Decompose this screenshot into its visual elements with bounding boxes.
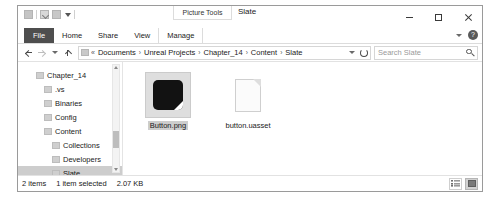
breadcrumb-item-chapter-14[interactable]: Chapter_14 [203,48,242,57]
file-item-button-png[interactable]: Button.png [137,70,199,130]
breadcrumb-separator-1[interactable]: › [139,49,141,56]
navigation-pane: Chapter_14 .vs Binaries Config [18,62,123,175]
folder-icon [44,114,52,121]
generic-file-icon [235,79,261,112]
folder-icon [44,86,52,93]
maximize-button[interactable] [424,6,453,28]
breadcrumb-item-unreal-projects[interactable]: Unreal Projects [144,48,195,57]
qat-folder-icon[interactable] [24,10,33,19]
up-button[interactable] [61,45,74,61]
help-icon[interactable]: ? [468,30,478,40]
tree-item-collections[interactable]: Collections [18,138,122,152]
file-thumbnail [145,72,191,118]
breadcrumb: « Documents › Unreal Projects › Chapter_… [91,48,345,57]
up-arrow-icon [64,49,72,57]
minimize-button[interactable] [395,6,424,28]
file-item-button-uasset[interactable]: button.uasset [217,70,279,130]
selection-label: 1 item selected [56,179,106,188]
tree-item-label: Slate [63,169,80,176]
tree-item-developers[interactable]: Developers [18,152,122,166]
details-view-icon [451,180,460,187]
quick-access-toolbar [24,10,75,19]
qat-customize-chevron-down-icon[interactable] [65,13,71,17]
tree-item-label: Chapter_14 [47,71,86,80]
folder-icon [52,142,60,149]
nav-pane-scrollbar[interactable] [112,64,120,173]
back-arrow-icon [25,49,32,56]
minimize-icon [406,17,413,18]
ribbon-controls: ? [456,30,478,40]
title-bar: Picture Tools Slate [18,6,482,28]
scroll-up-icon[interactable] [114,66,118,69]
qat-properties-icon[interactable] [40,10,49,19]
breadcrumb-overflow[interactable]: « [91,49,95,56]
file-list-pane[interactable]: Button.png button.uasset [123,62,482,175]
tree-item-label: Content [55,127,81,136]
folder-icon [44,128,52,135]
tree-item-config[interactable]: Config [18,110,122,124]
tree-item-vs[interactable]: .vs [18,82,122,96]
details-view-button[interactable] [449,178,462,190]
tab-home[interactable]: Home [54,28,90,43]
back-button[interactable] [22,45,35,61]
tab-view[interactable]: View [126,28,158,43]
file-thumbnail [225,72,271,118]
folder-icon [52,170,60,176]
search-input[interactable]: Search Slate [374,46,478,60]
breadcrumb-item-slate[interactable]: Slate [285,48,302,57]
qat-new-folder-icon[interactable] [52,10,61,19]
item-count-label: 2 items [22,179,46,188]
recent-chevron-down-icon [52,51,58,54]
status-bar: 2 items 1 item selected 2.07 KB [18,175,482,191]
tree-item-slate[interactable]: Slate [18,166,122,175]
folder-tree: Chapter_14 .vs Binaries Config [18,62,122,175]
explorer-body: Chapter_14 .vs Binaries Config [18,62,482,175]
recent-locations-button[interactable] [48,45,61,61]
tree-item-chapter-14[interactable]: Chapter_14 [18,68,122,82]
tab-share[interactable]: Share [90,28,126,43]
collapse-ribbon-chevron-down-icon[interactable] [456,34,462,37]
breadcrumb-folder-icon [81,49,89,56]
folder-icon [52,156,60,163]
breadcrumb-separator-3[interactable]: › [246,49,248,56]
qat-divider-2 [74,10,75,19]
ribbon-tabs: File Home Share View Manage [24,28,203,43]
tree-item-content[interactable]: Content [18,124,122,138]
tree-item-label: .vs [55,85,65,94]
scroll-down-icon[interactable] [114,168,118,171]
address-chevron-down-icon[interactable] [349,51,355,54]
refresh-icon[interactable] [360,49,368,57]
tree-item-label: Binaries [55,99,82,108]
contextual-tools-label: Picture Tools [173,6,232,20]
address-bar: « Documents › Unreal Projects › Chapter_… [18,44,482,62]
close-icon [464,13,472,21]
forward-button[interactable] [35,45,48,61]
breadcrumb-separator-4[interactable]: › [280,49,282,56]
close-button[interactable] [453,6,482,28]
view-mode-buttons [449,178,478,190]
tree-item-binaries[interactable]: Binaries [18,96,122,110]
file-explorer-window: Picture Tools Slate File Home Share [17,5,483,192]
large-icons-view-button[interactable] [465,178,478,190]
tree-item-label: Collections [63,141,100,150]
maximize-icon [435,14,442,21]
window-title: Slate [238,7,256,16]
tab-manage[interactable]: Manage [158,28,203,43]
ribbon-tab-bar: File Home Share View Manage ? [18,28,482,44]
breadcrumb-item-documents[interactable]: Documents [98,48,136,57]
folder-icon [44,100,52,107]
search-placeholder: Search Slate [378,48,421,57]
large-icons-view-icon [468,180,476,187]
breadcrumb-item-content[interactable]: Content [251,48,277,57]
breadcrumb-bar[interactable]: « Documents › Unreal Projects › Chapter_… [78,46,371,60]
window-controls [395,6,482,28]
tree-item-label: Developers [63,155,101,164]
tree-item-label: Config [55,113,77,122]
breadcrumb-controls [345,49,368,57]
selection-size-label: 2.07 KB [117,179,144,188]
tab-file[interactable]: File [24,28,54,43]
breadcrumb-separator-2[interactable]: › [198,49,200,56]
file-name-label: Button.png [148,121,188,130]
scrollbar-thumb[interactable] [113,131,119,148]
search-icon[interactable] [466,49,474,57]
